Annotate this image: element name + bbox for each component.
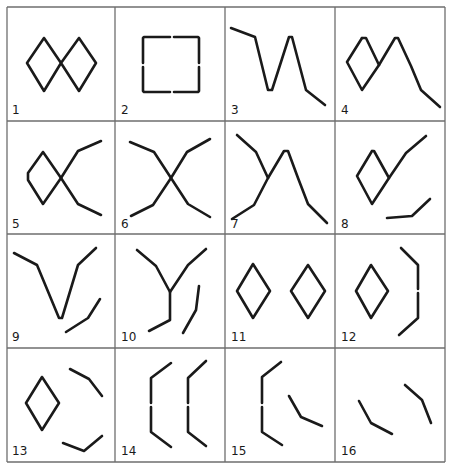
cell-number-label: 16 [341,444,356,458]
figure-svg: 12345678910111213141516 [0,0,453,469]
cell-number-label: 12 [341,330,356,344]
cell-number-label: 7 [231,217,239,231]
cell-number-label: 13 [12,444,27,458]
figure-cell-8: 8 [335,121,445,234]
figure-cell-3: 3 [225,7,335,121]
cells: 12345678910111213141516 [7,7,445,462]
figure-cell-10: 10 [115,234,225,348]
cell-number-label: 5 [12,217,20,231]
figure-cell-9: 9 [7,234,115,348]
figure-cell-2: 2 [115,7,225,121]
cell-number-label: 9 [12,330,20,344]
cell-number-label: 4 [341,103,349,117]
figure-cell-4: 4 [335,7,445,121]
figure-cell-11: 11 [225,234,335,348]
figure-cell-16: 16 [335,348,445,462]
cell-number-label: 6 [121,217,129,231]
cell-area [115,7,225,121]
cell-number-label: 8 [341,217,349,231]
cell-area [335,7,445,121]
figure-cell-15: 15 [225,348,335,462]
figure-grid: 12345678910111213141516 [0,0,453,469]
cell-number-label: 15 [231,444,246,458]
figure-cell-7: 7 [225,121,335,234]
figure-cell-6: 6 [115,121,225,234]
figure-cell-1: 1 [7,7,115,121]
cell-number-label: 3 [231,103,239,117]
figure-cell-5: 5 [7,121,115,234]
figure-cell-13: 13 [7,348,115,462]
figure-cell-14: 14 [115,348,225,462]
cell-area [7,234,115,348]
figure-cell-12: 12 [335,234,445,348]
cell-number-label: 2 [121,103,129,117]
cell-number-label: 1 [12,103,20,117]
cell-number-label: 11 [231,330,246,344]
cell-number-label: 10 [121,330,136,344]
cell-number-label: 14 [121,444,136,458]
